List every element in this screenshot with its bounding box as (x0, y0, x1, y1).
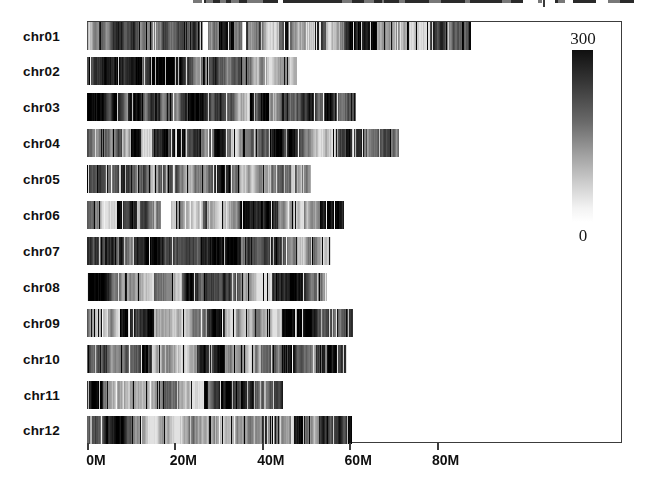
x-axis-tick-80M (437, 443, 439, 450)
chromosome-label-chr01: chr01 (18, 29, 60, 44)
chromosome-density-figure: 300 0 chr01chr02chr03chr04chr05chr06chr0… (0, 0, 649, 483)
x-axis-tick-0M (87, 443, 89, 450)
x-axis-tick-label-60M: 60M (345, 452, 372, 468)
density-bar-chr08 (87, 273, 327, 301)
density-bar-chr02 (87, 57, 297, 85)
chromosome-label-chr05: chr05 (18, 172, 60, 187)
colorbar-gradient (572, 50, 593, 222)
x-axis-tick-40M (262, 443, 264, 450)
cropped-top-edge-artifact (188, 0, 649, 3)
density-bar-chr12 (87, 416, 352, 444)
chromosome-label-chr08: chr08 (18, 280, 60, 295)
density-bar-chr05 (87, 165, 311, 193)
chromosome-label-chr10: chr10 (18, 352, 60, 367)
density-bar-chr10 (87, 345, 347, 373)
colorbar-min-label: 0 (551, 226, 615, 246)
density-bar-chr01 (87, 22, 471, 50)
x-axis-tick-20M (174, 443, 176, 450)
density-bar-chr11 (87, 381, 283, 409)
cropped-top-tick-artifact (543, 0, 545, 7)
chromosome-label-chr04: chr04 (18, 136, 60, 151)
density-bar-chr09 (87, 309, 353, 337)
chromosome-label-chr11: chr11 (18, 388, 60, 403)
density-bar-chr07 (87, 237, 331, 265)
colorbar-max-label: 300 (551, 29, 615, 49)
chromosome-label-chr02: chr02 (18, 64, 60, 79)
chromosome-label-chr07: chr07 (18, 244, 60, 259)
density-bar-chr06 (87, 201, 344, 229)
density-bar-chr03 (87, 93, 356, 121)
chromosome-label-chr03: chr03 (18, 100, 60, 115)
chromosome-label-chr12: chr12 (18, 423, 60, 438)
x-axis-tick-label-20M: 20M (170, 452, 197, 468)
density-bar-chr04 (87, 129, 399, 157)
chromosome-label-chr09: chr09 (18, 316, 60, 331)
x-axis-tick-label-40M: 40M (257, 452, 284, 468)
chromosome-label-chr06: chr06 (18, 208, 60, 223)
x-axis-tick-label-0M: 0M (86, 452, 105, 468)
x-axis-tick-label-80M: 80M (432, 452, 459, 468)
x-axis-tick-60M (349, 443, 351, 450)
